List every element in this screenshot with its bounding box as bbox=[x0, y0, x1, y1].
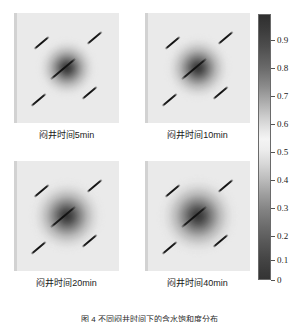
colorbar-tick bbox=[271, 96, 275, 97]
colorbar-gradient bbox=[258, 14, 271, 280]
colorbar-label-4: 0.5 bbox=[277, 148, 288, 157]
figure-caption: 图 4 不同闷井时间下的含水饱和度分布 bbox=[0, 315, 299, 322]
heatmap-20min bbox=[14, 161, 119, 271]
panel-caption-5min: 闷井时间5min bbox=[14, 129, 119, 141]
colorbar-tick bbox=[271, 280, 275, 281]
colorbar-label-1: 0.8 bbox=[277, 64, 288, 73]
colorbar-tick bbox=[271, 236, 275, 237]
colorbar-tick bbox=[271, 124, 275, 125]
colorbar-label-6: 0.3 bbox=[277, 204, 288, 213]
colorbar-label-2: 0.7 bbox=[277, 92, 288, 101]
panel-caption-40min: 闷井时间40min bbox=[145, 277, 250, 289]
panel-grid: 闷井时间5min 闷井时间10min bbox=[14, 13, 250, 305]
colorbar-label-3: 0.6 bbox=[277, 120, 288, 129]
colorbar-label-0: 0.9 bbox=[277, 36, 288, 45]
colorbar-tick bbox=[271, 152, 275, 153]
colorbar-tick bbox=[271, 68, 275, 69]
colorbar-tick bbox=[271, 260, 275, 261]
colorbar-tick bbox=[271, 40, 275, 41]
colorbar-label-5: 0.4 bbox=[277, 176, 288, 185]
colorbar: 0.9 0.8 0.7 0.6 0.5 0.4 0.3 0.2 0.1 0 bbox=[258, 14, 299, 292]
colorbar-label-9: 0 bbox=[277, 276, 282, 285]
figure-container: 闷井时间5min 闷井时间10min bbox=[0, 0, 299, 322]
heatmap-5min bbox=[14, 13, 119, 123]
colorbar-label-8: 0.1 bbox=[277, 256, 288, 265]
colorbar-tick bbox=[271, 180, 275, 181]
panel-caption-20min: 闷井时间20min bbox=[14, 277, 119, 289]
colorbar-tick bbox=[271, 208, 275, 209]
panel-caption-10min: 闷井时间10min bbox=[145, 129, 250, 141]
panel-shutin-5: 闷井时间5min bbox=[14, 13, 119, 141]
panel-shutin-40: 闷井时间40min bbox=[145, 161, 250, 289]
panel-shutin-10: 闷井时间10min bbox=[145, 13, 250, 141]
heatmap-10min bbox=[145, 13, 250, 123]
panel-shutin-20: 闷井时间20min bbox=[14, 161, 119, 289]
heatmap-40min bbox=[145, 161, 250, 271]
colorbar-label-7: 0.2 bbox=[277, 232, 288, 241]
